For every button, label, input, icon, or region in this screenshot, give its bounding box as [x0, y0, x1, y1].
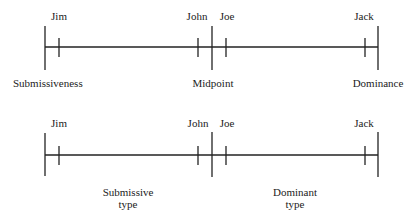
axis-label-dominance: Dominance [353, 77, 404, 89]
person-label-jack: Jack [354, 10, 374, 22]
person-label-joe: Joe [220, 117, 235, 129]
category-line-1: Submissive [103, 186, 154, 198]
person-label-john: John [187, 10, 208, 22]
category-label-dominant-type: Dominant type [273, 186, 317, 210]
axis-label-submissiveness: Submissiveness [13, 77, 83, 89]
person-label-jack: Jack [354, 117, 374, 129]
category-line-2: type [273, 198, 317, 210]
category-label-submissive-type: Submissive type [103, 186, 154, 210]
diagram-lines [0, 0, 418, 217]
category-line-1: Dominant [273, 186, 317, 198]
person-label-john: John [188, 117, 209, 129]
category-line-2: type [103, 198, 154, 210]
person-label-joe: Joe [220, 10, 235, 22]
axis-label-midpoint: Midpoint [193, 77, 234, 89]
person-label-jim: Jim [51, 117, 67, 129]
person-label-jim: Jim [51, 10, 67, 22]
